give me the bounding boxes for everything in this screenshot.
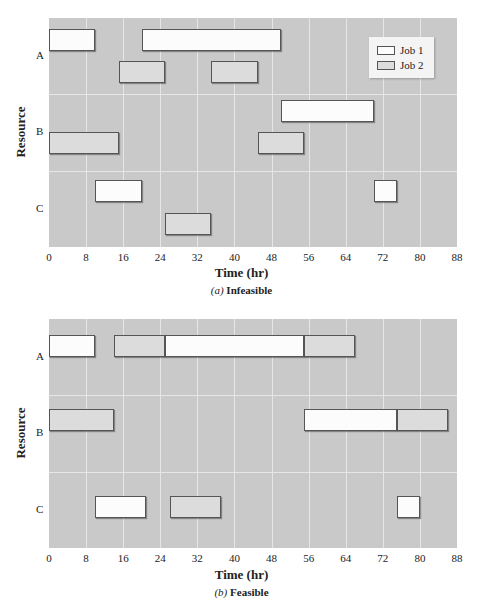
chart-b-feasible: ABCResource0816243240485664728088Time (h… xyxy=(0,300,483,612)
chart-caption: (b) Feasible xyxy=(0,586,483,598)
task-bar-a-job1 xyxy=(49,335,95,357)
x-tick-label: 32 xyxy=(192,251,203,263)
grid-line-vertical xyxy=(346,18,347,247)
grid-line-horizontal xyxy=(49,94,457,95)
x-tick-label: 72 xyxy=(377,552,388,564)
plot-area xyxy=(49,319,457,548)
grid-line-horizontal xyxy=(49,395,457,396)
resource-label-b: B xyxy=(36,125,43,137)
task-bar-c-job1 xyxy=(374,180,397,202)
y-axis-label: Resource xyxy=(13,106,29,157)
x-tick-label: 56 xyxy=(303,552,314,564)
legend-label: Job 2 xyxy=(400,59,424,71)
task-bar-a-job1 xyxy=(49,29,95,51)
legend: Job 1Job 2 xyxy=(369,37,434,78)
resource-label-b: B xyxy=(36,426,43,438)
grid-line-vertical xyxy=(309,18,310,247)
grid-line-vertical xyxy=(383,319,384,548)
y-axis-label: Resource xyxy=(13,407,29,458)
resource-label-c: C xyxy=(36,202,43,214)
x-tick-label: 88 xyxy=(452,552,463,564)
x-tick-label: 48 xyxy=(266,552,277,564)
x-tick-label: 24 xyxy=(155,552,166,564)
x-tick-label: 16 xyxy=(118,251,129,263)
legend-item-job2: Job 2 xyxy=(377,59,424,71)
x-tick-label: 8 xyxy=(83,552,89,564)
grid-line-horizontal xyxy=(49,472,457,473)
x-axis-label: Time (hr) xyxy=(0,567,483,583)
legend-label: Job 1 xyxy=(400,44,424,56)
grid-line-vertical xyxy=(123,18,124,247)
resource-label-c: C xyxy=(36,503,43,515)
x-tick-label: 72 xyxy=(377,251,388,263)
x-tick-label: 0 xyxy=(46,251,52,263)
x-tick-label: 88 xyxy=(452,251,463,263)
x-tick-label: 48 xyxy=(266,251,277,263)
chart-a-infeasible: Job 1Job 2ABCResource0816243240485664728… xyxy=(0,0,483,306)
task-bar-a-job2 xyxy=(211,61,257,83)
plot-area: Job 1Job 2 xyxy=(49,18,457,247)
task-bar-a-job1 xyxy=(165,335,304,357)
x-tick-label: 24 xyxy=(155,251,166,263)
x-tick-label: 40 xyxy=(229,251,240,263)
legend-swatch-icon xyxy=(377,46,395,55)
task-bar-c-job1 xyxy=(397,496,420,518)
task-bar-a-job2 xyxy=(114,335,165,357)
task-bar-a-job1 xyxy=(142,29,281,51)
x-tick-label: 40 xyxy=(229,552,240,564)
task-bar-c-job2 xyxy=(170,496,221,518)
chart-caption: (a) Infeasible xyxy=(0,284,483,296)
x-tick-label: 80 xyxy=(414,251,425,263)
x-tick-label: 32 xyxy=(192,552,203,564)
x-tick-label: 0 xyxy=(46,552,52,564)
task-bar-a-job2 xyxy=(304,335,355,357)
resource-label-a: A xyxy=(36,49,44,61)
task-bar-b-job2 xyxy=(49,132,119,154)
x-tick-label: 80 xyxy=(414,552,425,564)
task-bar-c-job2 xyxy=(165,213,211,235)
x-axis-label: Time (hr) xyxy=(0,265,483,281)
x-tick-label: 8 xyxy=(83,251,89,263)
grid-line-vertical xyxy=(420,319,421,548)
resource-label-a: A xyxy=(36,350,44,362)
grid-line-horizontal xyxy=(49,171,457,172)
task-bar-b-job2 xyxy=(49,409,114,431)
x-tick-label: 16 xyxy=(118,552,129,564)
task-bar-c-job1 xyxy=(95,496,146,518)
x-tick-label: 64 xyxy=(340,251,351,263)
task-bar-b-job1 xyxy=(304,409,397,431)
task-bar-b-job1 xyxy=(281,100,374,122)
task-bar-c-job1 xyxy=(95,180,141,202)
grid-line-vertical xyxy=(234,18,235,247)
legend-swatch-icon xyxy=(377,61,395,70)
x-tick-label: 56 xyxy=(303,251,314,263)
task-bar-a-job2 xyxy=(119,61,165,83)
x-tick-label: 64 xyxy=(340,552,351,564)
task-bar-b-job2 xyxy=(397,409,448,431)
legend-item-job1: Job 1 xyxy=(377,44,424,56)
task-bar-b-job2 xyxy=(258,132,304,154)
grid-line-vertical xyxy=(160,18,161,247)
